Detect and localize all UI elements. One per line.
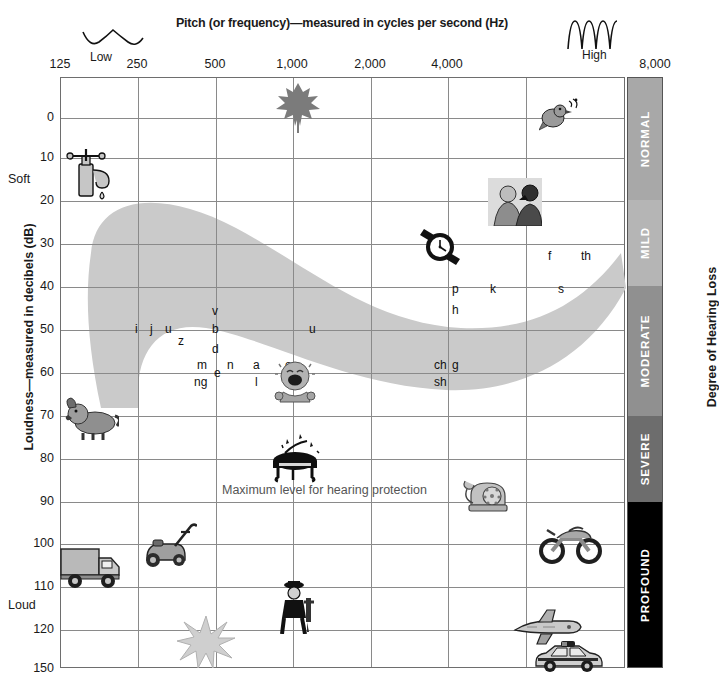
ytick-150: 150 xyxy=(14,661,54,675)
lawn-mower-icon xyxy=(137,518,197,568)
bands-axis-title: Degree of Hearing Loss xyxy=(705,217,719,457)
band-normal-label: NORMAL xyxy=(639,111,651,167)
phoneme-z: z xyxy=(178,335,184,347)
band-profound-label: PROFOUND xyxy=(639,548,651,622)
phoneme-k: k xyxy=(490,283,496,295)
baby-crying-icon xyxy=(271,358,319,404)
gridline-50db xyxy=(61,330,624,331)
degree-of-hearing-loss-bands: NORMAL MILD MODERATE SEVERE PROFOUND xyxy=(627,77,663,668)
xtick-4000: 4,000 xyxy=(417,57,477,71)
band-moderate-label: MODERATE xyxy=(639,315,651,388)
phoneme-s: s xyxy=(558,283,564,295)
phoneme-u2: u xyxy=(309,323,316,335)
gridline-110db xyxy=(61,587,624,588)
barking-dog-icon xyxy=(65,396,119,440)
xtick-125: 125 xyxy=(30,57,90,71)
ticking-watch-icon xyxy=(416,223,464,271)
phoneme-sh: sh xyxy=(434,376,447,388)
phoneme-ng: ng xyxy=(194,376,207,388)
max-hearing-protection-annotation: Maximum level for hearing protection xyxy=(222,483,427,497)
gridline-80db xyxy=(61,459,624,460)
truck-icon xyxy=(60,544,128,590)
telephone-icon xyxy=(461,473,513,515)
ytick-90: 90 xyxy=(14,494,54,508)
gridline-10db xyxy=(61,158,624,159)
jackhammer-icon xyxy=(276,578,322,634)
phoneme-n: n xyxy=(227,359,234,371)
band-moderate: MODERATE xyxy=(628,286,662,416)
gridline-90db xyxy=(61,502,624,503)
phoneme-a: a xyxy=(253,359,260,371)
phoneme-g: g xyxy=(452,359,459,371)
phoneme-th: th xyxy=(581,250,591,262)
phoneme-e: e xyxy=(214,367,221,379)
xtick-500: 500 xyxy=(185,57,245,71)
gridline-70db xyxy=(61,416,624,417)
band-severe: SEVERE xyxy=(628,416,662,502)
firecracker-icon xyxy=(177,616,235,668)
gridline-60db xyxy=(61,373,624,374)
band-severe-label: SEVERE xyxy=(639,433,651,486)
gridline-40db xyxy=(61,287,624,288)
piano-icon xyxy=(267,433,323,483)
motorcycle-icon xyxy=(539,518,603,564)
band-profound: PROFOUND xyxy=(628,502,662,667)
dripping-faucet-icon xyxy=(66,148,118,202)
phoneme-ch: ch xyxy=(434,359,447,371)
phoneme-j: j xyxy=(150,323,153,335)
band-mild: MILD xyxy=(628,200,662,286)
ytick-20: 20 xyxy=(14,193,54,207)
phoneme-v: v xyxy=(212,305,218,317)
phoneme-d: d xyxy=(212,343,219,355)
phoneme-p: p xyxy=(452,283,459,295)
xtick-250: 250 xyxy=(107,57,167,71)
phoneme-b: b xyxy=(212,323,219,335)
phoneme-f: f xyxy=(548,250,551,262)
y-axis-title: Loudness—measured in decibels (dB) xyxy=(22,217,36,457)
leaves-rustling-icon xyxy=(276,83,320,133)
loud-loudness-label: Loud xyxy=(8,598,36,612)
bird-chirping-icon xyxy=(539,98,579,138)
ytick-10: 10 xyxy=(14,150,54,164)
xtick-2000: 2,000 xyxy=(340,57,400,71)
phoneme-h: h xyxy=(452,304,459,316)
band-normal: NORMAL xyxy=(628,78,662,200)
ytick-110: 110 xyxy=(14,579,54,593)
ytick-0: 0 xyxy=(14,110,54,124)
phoneme-i: i xyxy=(135,323,138,335)
band-mild-label: MILD xyxy=(639,227,651,259)
audiogram-plot-area[interactable]: i j u z v b d m e n ng a l u o r ch sh p… xyxy=(60,77,625,668)
gridline-30db xyxy=(61,244,624,245)
high-pitch-label: High xyxy=(582,48,607,62)
xtick-1000: 1,000 xyxy=(262,57,322,71)
phoneme-m: m xyxy=(197,359,207,371)
whispering-people-icon xyxy=(488,178,542,226)
ytick-100: 100 xyxy=(14,536,54,550)
police-car-icon xyxy=(533,638,605,672)
phoneme-l: l xyxy=(255,376,258,388)
xtick-8000: 8,000 xyxy=(625,57,685,71)
ytick-120: 120 xyxy=(14,622,54,636)
phoneme-u1: u xyxy=(165,323,172,335)
soft-loudness-label: Soft xyxy=(8,172,30,186)
